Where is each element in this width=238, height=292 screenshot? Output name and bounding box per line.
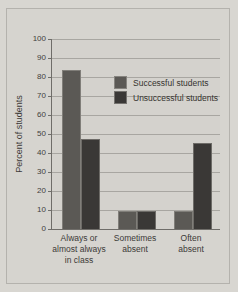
bar [137,211,156,229]
y-axis-tick-label: 100 [33,35,46,43]
y-axis-tick [48,39,52,40]
legend-swatch [114,76,127,89]
legend-label: Unsuccessful students [133,93,218,103]
y-axis-tick-label: 10 [37,206,46,214]
x-axis-category-line: almost always [47,244,111,255]
y-axis-tick-label: 30 [37,168,46,176]
x-axis-category-line: Sometimes [103,233,167,244]
y-axis-tick [48,96,52,97]
gridline [52,58,220,59]
y-axis-tick-label: 40 [37,149,46,157]
y-axis-tick [48,210,52,211]
x-axis-category-label: Oftenabsent [159,233,223,255]
x-axis-category-label: Always oralmost alwaysin class [47,233,111,266]
y-axis-tick-label: 90 [37,54,46,62]
bar [174,211,193,229]
y-axis-tick-label: 20 [37,187,46,195]
y-axis-tick [48,191,52,192]
y-axis-tick [48,58,52,59]
chart-legend: Successful studentsUnsuccessful students [111,73,221,107]
y-axis-tick-label: 0 [42,225,46,233]
y-axis-tick [48,115,52,116]
bar [193,143,212,230]
chart-figure: Percent of students 01020304050607080901… [0,0,238,292]
x-axis-category-line: absent [103,244,167,255]
bar [62,70,81,229]
x-axis-category-line: Often [159,233,223,244]
gridline [52,39,220,40]
y-axis-tick-label: 50 [37,130,46,138]
x-axis-category-line: absent [159,244,223,255]
bar [118,211,137,229]
x-axis-category-line: Always or [47,233,111,244]
y-axis-tick [48,134,52,135]
y-axis-title: Percent of students [14,95,24,173]
plot-area: 0102030405060708090100 [51,39,220,230]
x-axis-category-label: Sometimesabsent [103,233,167,255]
y-axis-tick [48,153,52,154]
y-axis-tick-label: 80 [37,73,46,81]
y-axis-tick-label: 60 [37,111,46,119]
bar [81,139,100,229]
legend-swatch [114,91,127,104]
chart-panel: Percent of students 01020304050607080901… [6,8,230,284]
legend-label: Successful students [133,78,209,88]
legend-item: Successful students [114,75,218,90]
y-axis-tick-label: 70 [37,92,46,100]
legend-item: Unsuccessful students [114,90,218,105]
y-axis-tick [48,172,52,173]
y-axis-tick [48,77,52,78]
y-axis-tick [48,229,52,230]
x-axis-category-line: in class [47,255,111,266]
